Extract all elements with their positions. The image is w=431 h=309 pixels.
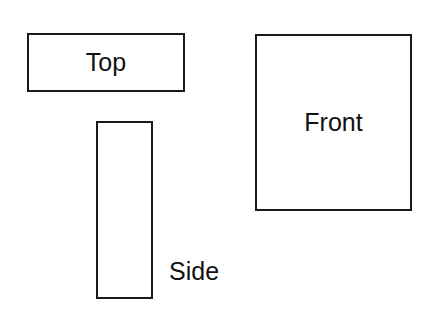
- top-view-box: Top: [27, 33, 185, 92]
- top-view-label: Top: [86, 50, 126, 75]
- side-view-box: [96, 121, 153, 299]
- side-view-label: Side: [169, 259, 219, 284]
- front-view-label: Front: [304, 110, 362, 135]
- front-view-box: Front: [255, 34, 412, 211]
